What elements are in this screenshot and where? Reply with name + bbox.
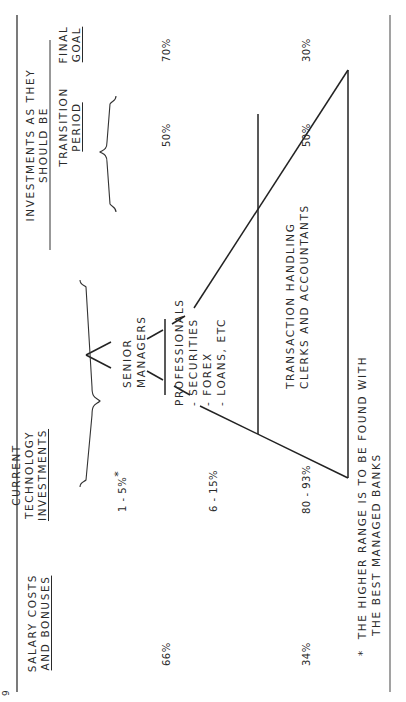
- salary-header: SALARY COSTS AND BONUSES: [26, 558, 52, 688]
- footnote: * THE HIGHER RANGE IS TO BE FOUND WITH T…: [355, 356, 383, 656]
- professionals-label: PROFESSIONALS - SECURITIES - FOREX - LOA…: [172, 298, 228, 406]
- final-upper-value: 70%: [160, 38, 173, 62]
- current-senior-value: 1 - 5%*: [112, 471, 129, 512]
- footnote-asterisk: *: [356, 649, 368, 656]
- asterisk-mark: *: [112, 471, 125, 477]
- final-lower-value: 30%: [300, 38, 313, 62]
- current-professionals-value: 6 - 15%: [207, 470, 220, 512]
- transition-lower-value: 50%: [300, 123, 313, 147]
- final-header: FINAL GOAL: [57, 7, 83, 82]
- salary-brace: [80, 280, 100, 487]
- rotated-document-frame: 9 SALARY COSTS AND BONUSES CURRENT TECHN…: [0, 0, 406, 702]
- salary-upper-value: 66%: [160, 642, 173, 666]
- should-be-header: INVESTMENTS AS THEY SHOULD BE: [24, 40, 50, 250]
- page-marker: 9: [0, 689, 13, 696]
- transition-header: TRANSITION PERIOD: [57, 77, 83, 177]
- current-tech-header: CURRENT TECHNOLOGY INVESTMENTS: [10, 405, 49, 545]
- transaction-label: TRANSACTION HANDLING CLERKS AND ACCOUNTA…: [283, 204, 311, 389]
- transition-upper-value: 50%: [160, 123, 173, 147]
- salary-lower-value: 34%: [300, 642, 313, 666]
- transition-brace: [100, 96, 116, 212]
- senior-managers-label: SENIOR MANAGERS: [120, 315, 148, 388]
- current-transaction-value: 80 - 93%: [300, 465, 313, 514]
